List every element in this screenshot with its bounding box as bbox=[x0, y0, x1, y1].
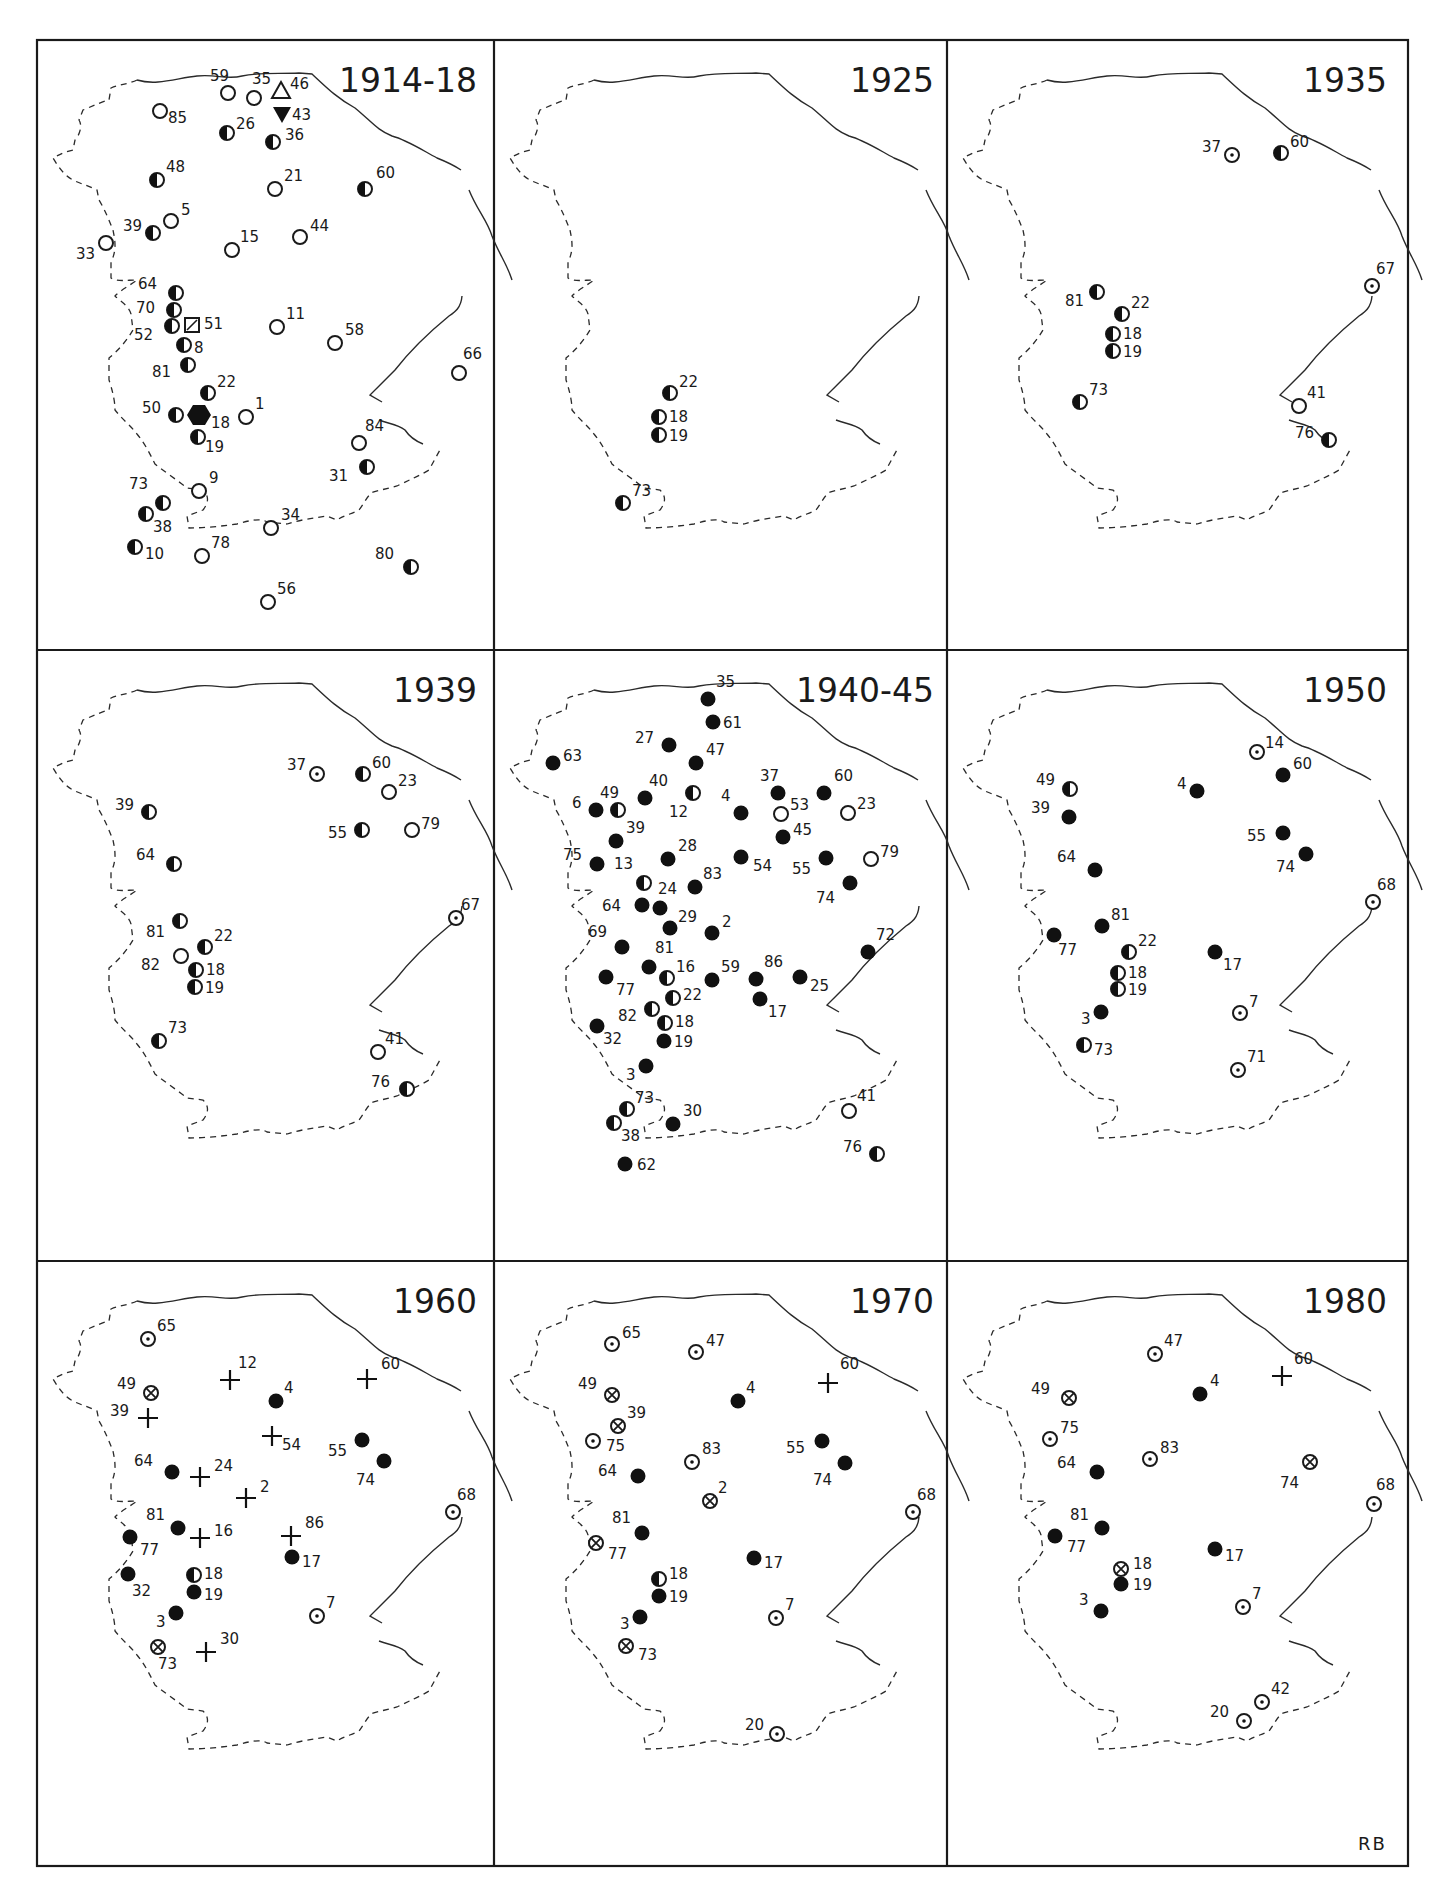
site-number-label: 19 bbox=[669, 427, 688, 445]
site-marker: 76 bbox=[1295, 424, 1336, 447]
open-circle-icon bbox=[774, 807, 788, 821]
site-marker: 22 bbox=[1122, 932, 1157, 959]
half-circle-icon bbox=[652, 1572, 666, 1586]
site-marker: 35 bbox=[701, 673, 736, 707]
half-circle-icon bbox=[870, 1147, 884, 1161]
site-number-label: 6 bbox=[572, 794, 582, 812]
site-marker: 18 bbox=[1106, 325, 1142, 343]
panel-year-title: 1940-45 bbox=[796, 671, 934, 710]
open-circle-icon bbox=[293, 230, 307, 244]
site-marker: 19 bbox=[187, 1585, 224, 1605]
site-number-label: 67 bbox=[461, 896, 480, 914]
filled-circle-icon bbox=[1094, 1005, 1109, 1020]
half-circle-icon bbox=[1073, 395, 1087, 409]
site-marker: 55 bbox=[1247, 826, 1291, 846]
half-circle-icon bbox=[1274, 146, 1288, 160]
site-marker: 60 bbox=[817, 767, 854, 801]
site-number-label: 76 bbox=[1295, 424, 1314, 442]
filled-circle-icon bbox=[666, 1117, 681, 1132]
region-outline bbox=[53, 1294, 512, 1749]
site-marker: 70 bbox=[136, 299, 181, 317]
open-circle-icon bbox=[841, 806, 855, 820]
filled-circle-icon bbox=[663, 921, 678, 936]
half-circle-icon bbox=[181, 358, 195, 372]
site-marker: 7 bbox=[769, 1596, 795, 1625]
site-number-label: 66 bbox=[463, 345, 482, 363]
filled-circle-icon bbox=[817, 786, 832, 801]
site-marker: 77 bbox=[589, 1536, 627, 1563]
site-marker: 38 bbox=[139, 507, 172, 536]
site-number-label: 39 bbox=[1031, 799, 1050, 817]
filled-circle-icon bbox=[1095, 919, 1110, 934]
dotted-circle-icon bbox=[1237, 1714, 1251, 1728]
site-marker: 74 bbox=[356, 1454, 392, 1490]
site-number-label: 58 bbox=[345, 321, 364, 339]
half-circle-icon bbox=[355, 823, 369, 837]
map-panel-1914-18: 1914-18593546438526364821605393315446470… bbox=[53, 61, 512, 609]
site-number-label: 39 bbox=[110, 1402, 129, 1420]
site-marker: 13 bbox=[614, 855, 651, 890]
site-marker: 40 bbox=[638, 772, 669, 806]
site-marker: 74 bbox=[813, 1456, 853, 1490]
site-number-label: 69 bbox=[588, 923, 607, 941]
site-marker: 29 bbox=[663, 908, 698, 936]
filled-circle-icon bbox=[689, 756, 704, 771]
filled-circle-icon bbox=[734, 850, 749, 865]
filled-circle-icon bbox=[771, 786, 786, 801]
site-marker: 4 bbox=[731, 1379, 756, 1409]
open-circle-icon bbox=[382, 785, 396, 799]
half-circle-icon bbox=[1106, 344, 1120, 358]
dotted-circle-icon bbox=[1225, 148, 1239, 162]
site-marker: 11 bbox=[270, 305, 305, 334]
site-number-label: 64 bbox=[602, 897, 621, 915]
site-number-label: 37 bbox=[287, 756, 306, 774]
site-marker: 16 bbox=[660, 958, 695, 985]
filled-circle-icon bbox=[599, 970, 614, 985]
site-number-label: 17 bbox=[764, 1554, 783, 1572]
site-number-label: 81 bbox=[1065, 292, 1084, 310]
map-panel-1950: 195014604943955746468817722171819377371 bbox=[963, 671, 1422, 1138]
dotted-circle-icon bbox=[310, 767, 324, 781]
site-number-label: 68 bbox=[457, 1486, 476, 1504]
half-circle-icon bbox=[1111, 966, 1125, 980]
site-marker: 55 bbox=[792, 851, 834, 879]
site-marker: 34 bbox=[264, 506, 300, 535]
site-number-label: 73 bbox=[1094, 1041, 1113, 1059]
half-circle-icon bbox=[201, 386, 215, 400]
plus-icon bbox=[1272, 1366, 1292, 1386]
site-marker: 66 bbox=[452, 345, 482, 380]
dotted-circle-icon bbox=[605, 1337, 619, 1351]
half-circle-icon bbox=[187, 1568, 201, 1582]
site-marker: 31 bbox=[329, 460, 374, 485]
filled-circle-icon bbox=[121, 1567, 136, 1582]
filled-circle-icon bbox=[1208, 945, 1223, 960]
site-number-label: 2 bbox=[718, 1479, 728, 1497]
half-circle-icon bbox=[358, 182, 372, 196]
site-number-label: 49 bbox=[1031, 1380, 1050, 1398]
dotted-circle-icon bbox=[310, 1609, 324, 1623]
site-marker: 68 bbox=[906, 1486, 936, 1519]
site-marker: 75 bbox=[586, 1434, 625, 1455]
filled-circle-icon bbox=[1062, 810, 1077, 825]
site-marker: 18 bbox=[187, 1565, 223, 1583]
site-marker: 48 bbox=[150, 158, 185, 187]
panel-year-title: 1914-18 bbox=[339, 61, 477, 100]
site-number-label: 60 bbox=[1293, 755, 1312, 773]
site-marker: 37 bbox=[1202, 138, 1239, 162]
half-circle-icon bbox=[616, 496, 630, 510]
dotted-circle-icon bbox=[446, 1505, 460, 1519]
half-circle-icon bbox=[666, 991, 680, 1005]
half-circle-icon bbox=[188, 980, 202, 994]
site-marker: 81 bbox=[146, 914, 187, 941]
site-marker: 73 bbox=[620, 1089, 654, 1116]
filled-circle-icon bbox=[662, 738, 677, 753]
site-marker: 64 bbox=[138, 275, 183, 300]
panel-year-title: 1970 bbox=[850, 1282, 934, 1321]
site-number-label: 74 bbox=[1280, 1474, 1299, 1492]
open-circle-icon bbox=[261, 595, 275, 609]
site-marker: 81 bbox=[146, 1506, 186, 1536]
site-marker: 22 bbox=[663, 373, 698, 400]
site-marker: 68 bbox=[446, 1486, 476, 1519]
filled-circle-icon bbox=[734, 806, 749, 821]
site-number-label: 53 bbox=[790, 796, 809, 814]
